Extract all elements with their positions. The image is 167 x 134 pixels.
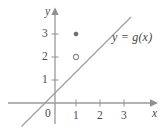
curve-equation-label: y = g(x) bbox=[112, 31, 152, 43]
y-tick-label-1: 1 bbox=[42, 74, 48, 86]
x-axis-arrow-icon bbox=[150, 99, 158, 107]
y-axis-label: y bbox=[45, 6, 50, 18]
x-axis-label: x bbox=[152, 108, 157, 120]
x-tick-label-3: 3 bbox=[121, 110, 127, 122]
y-axis-arrow-icon bbox=[51, 8, 58, 16]
x-tick-label-2: 2 bbox=[97, 110, 103, 122]
y-tick-label-2: 2 bbox=[42, 51, 48, 63]
filled-circle-point bbox=[74, 32, 78, 36]
open-circle-point bbox=[73, 54, 78, 59]
origin-tick-label: 0 bbox=[45, 108, 51, 120]
y-tick-label-3: 3 bbox=[42, 28, 48, 40]
graph-figure: y x 0 1 2 3 1 2 3 y = g(x) bbox=[0, 0, 167, 134]
x-tick-label-1: 1 bbox=[73, 110, 79, 122]
plot-canvas bbox=[0, 0, 167, 134]
